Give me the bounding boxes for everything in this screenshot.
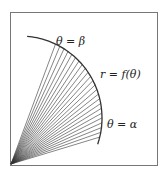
label-theta-alpha: θ = α xyxy=(107,118,138,131)
radial-segments xyxy=(11,44,102,164)
polar-area-diagram: θ = β r = f(θ) θ = α xyxy=(0,0,166,177)
label-curve: r = f(θ) xyxy=(100,68,141,81)
label-theta-beta: θ = β xyxy=(56,35,85,48)
